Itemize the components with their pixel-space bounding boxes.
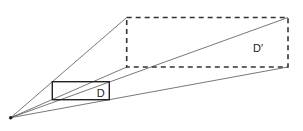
projection-line-top-left [11, 18, 127, 118]
label-d: D [97, 87, 105, 99]
projection-origin-point [9, 116, 13, 120]
projection-diagram: D D′ [0, 0, 303, 131]
label-d-prime: D′ [253, 42, 263, 54]
projected-rectangle-d-prime [127, 18, 288, 68]
